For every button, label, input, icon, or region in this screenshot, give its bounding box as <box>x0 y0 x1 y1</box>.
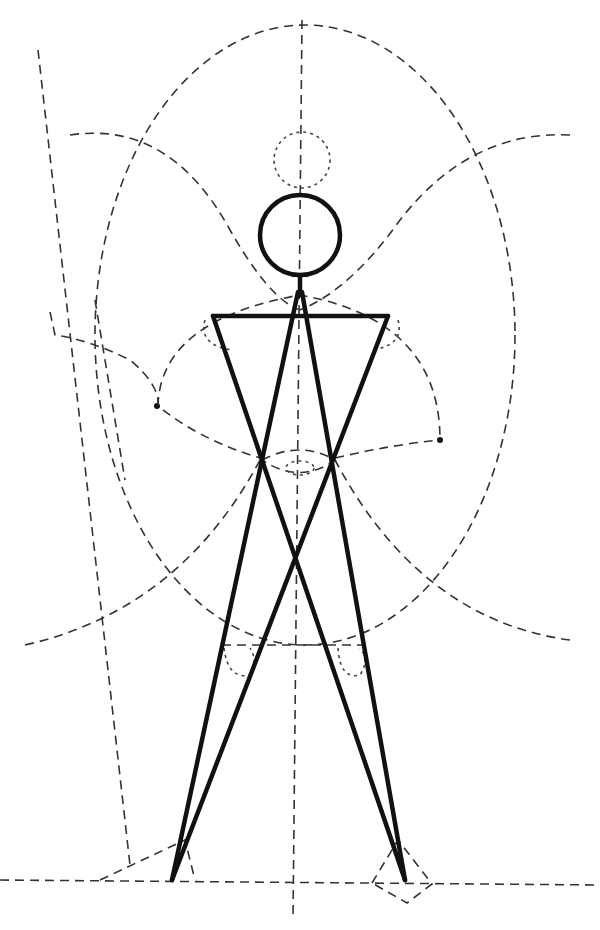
left-guide-line-2 <box>95 300 125 480</box>
neck-right-leg <box>302 292 405 880</box>
upper-left-arc <box>70 133 300 310</box>
left-hand-point <box>154 403 160 409</box>
upper-right-arc <box>300 135 570 310</box>
lower-right-arc <box>335 460 570 640</box>
figure-diagram <box>0 0 600 930</box>
arm-swing-curve <box>50 312 260 458</box>
ground-line <box>0 880 600 885</box>
left-guide-line-1 <box>38 50 130 865</box>
right-knee-circle <box>338 648 365 676</box>
right-hand-point <box>437 437 443 443</box>
left-body-line <box>213 316 405 880</box>
head-construction-circle <box>274 132 330 188</box>
construction-ellipse <box>95 25 515 645</box>
arm-right-curve <box>335 440 440 458</box>
navel-ellipse <box>286 461 314 475</box>
pelvis-ellipse <box>262 450 335 473</box>
center-axis <box>293 20 302 920</box>
lower-left-arc <box>25 460 260 645</box>
